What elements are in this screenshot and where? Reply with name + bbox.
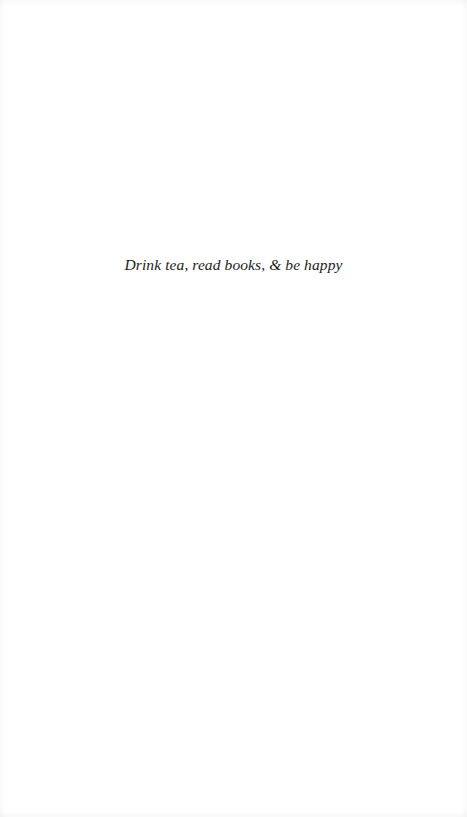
epigraph-text: Drink tea, read books, & be happy (0, 254, 467, 276)
book-page: Drink tea, read books, & be happy (0, 0, 467, 817)
